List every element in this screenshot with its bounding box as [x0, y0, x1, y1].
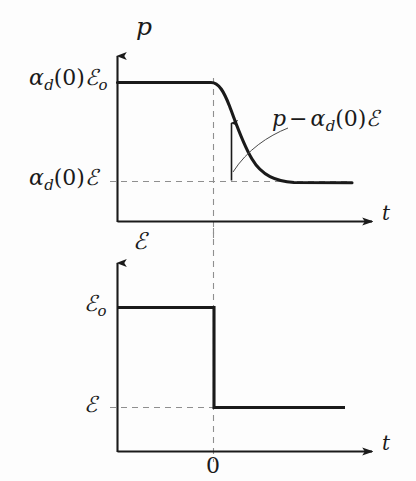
upper-y-axis-label: p: [136, 14, 152, 39]
alpha-symbol: α: [29, 65, 44, 90]
paren-zero: (0): [54, 165, 85, 190]
alpha-symbol: α: [311, 106, 326, 131]
script-e-symbol: ℰ: [366, 106, 379, 131]
script-e-symbol: ℰ: [84, 291, 97, 316]
lower-x-axis-label: t: [382, 433, 390, 453]
script-e-symbol: ℰ: [85, 165, 98, 190]
lower-y-axis-label: ℰ: [133, 230, 147, 253]
alpha-symbol: α: [29, 165, 44, 190]
alpha-subscript-d: d: [44, 176, 54, 194]
lower-data-step-curve: [118, 308, 346, 408]
script-e-symbol: ℰ: [85, 65, 98, 90]
figure-container: p t αd(0)ℰo αd(0)ℰ p−αd(0)ℰ ℰ t ℰo ℰ 0: [0, 0, 416, 481]
script-e-symbol: ℰ: [84, 392, 97, 417]
lower-xtick-label-origin: 0: [206, 455, 220, 477]
upper-plot-group: [110, 56, 372, 240]
lower-ytick-label-bottom: ℰ: [84, 394, 97, 416]
script-e-subscript-o: o: [98, 76, 107, 94]
minus-sign: −: [286, 106, 310, 131]
p-symbol: p: [272, 106, 286, 131]
paren-zero: (0): [54, 65, 85, 90]
upper-x-axis-label: t: [382, 203, 390, 223]
alpha-subscript-d: d: [325, 117, 335, 135]
lower-plot-group: [110, 228, 372, 462]
lower-ytick-label-top: ℰo: [84, 293, 107, 319]
paren-zero: (0): [335, 106, 366, 131]
script-e-subscript-o: o: [97, 302, 106, 320]
alpha-subscript-d: d: [44, 76, 54, 94]
upper-ytick-label-bottom: αd(0)ℰ: [29, 167, 98, 193]
upper-ytick-label-top: αd(0)ℰo: [29, 67, 107, 93]
upper-curve-annotation: p−αd(0)ℰ: [272, 108, 380, 134]
